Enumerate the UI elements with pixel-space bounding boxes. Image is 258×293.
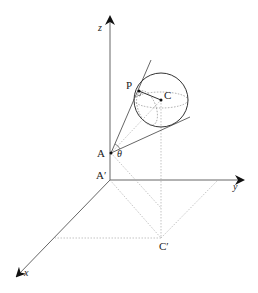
- point-cprime-label: C′: [159, 240, 169, 252]
- theta-label: θ: [117, 148, 122, 159]
- sphere-tangent-cone-diagram: z y x P C A θ A′ C′: [0, 0, 258, 293]
- point-c-label: C: [164, 89, 171, 101]
- x-axis-label: x: [23, 267, 29, 278]
- point-p-label: P: [126, 79, 132, 91]
- point-p: [138, 90, 141, 93]
- point-c: [160, 99, 163, 102]
- z-axis-label: z: [97, 22, 102, 33]
- point-a-label: A: [97, 147, 105, 159]
- aprime-to-cprime: [110, 180, 161, 238]
- x-axis: [17, 180, 110, 276]
- point-a: [110, 152, 113, 155]
- point-aprime-label: A′: [96, 169, 106, 181]
- cprime-to-y-axis: [161, 180, 218, 238]
- tangent-line-lower: [111, 117, 190, 153]
- y-axis-label: y: [232, 181, 238, 192]
